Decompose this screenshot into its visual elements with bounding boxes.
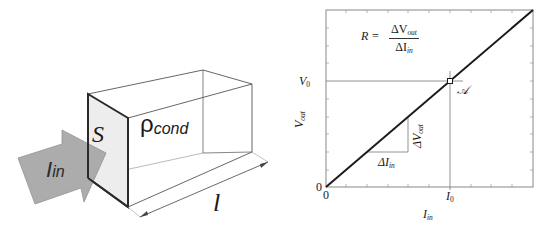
iv-chart xyxy=(326,10,533,190)
x-axis-label: Iin xyxy=(423,208,433,221)
iv-characteristic-line xyxy=(326,10,533,187)
cross-section-label: S xyxy=(92,122,104,146)
resistivity-label: ρcond xyxy=(140,112,188,137)
operating-point-label: 𝒜 xyxy=(457,84,468,96)
length-dimension xyxy=(128,152,268,217)
length-label: l xyxy=(213,190,220,216)
current-label: Iin xyxy=(46,159,65,181)
conductor-block xyxy=(88,70,252,207)
operating-point-marker xyxy=(448,79,453,84)
delta-v-label: ΔVout xyxy=(411,124,424,148)
delta-i-label: ΔIin xyxy=(378,156,395,169)
diagram-canvas xyxy=(0,0,552,230)
origin-y-label: 0 xyxy=(316,181,322,193)
resistance-formula-lhs: R = xyxy=(361,30,379,42)
origin-x-label: 0 xyxy=(323,189,329,201)
resistance-formula-fraction: ΔVout ΔIin xyxy=(389,22,419,55)
i0-tick-label: I0 xyxy=(446,190,454,203)
y-axis-label: Vout xyxy=(293,111,306,128)
v0-tick-label: V0 xyxy=(299,75,310,88)
